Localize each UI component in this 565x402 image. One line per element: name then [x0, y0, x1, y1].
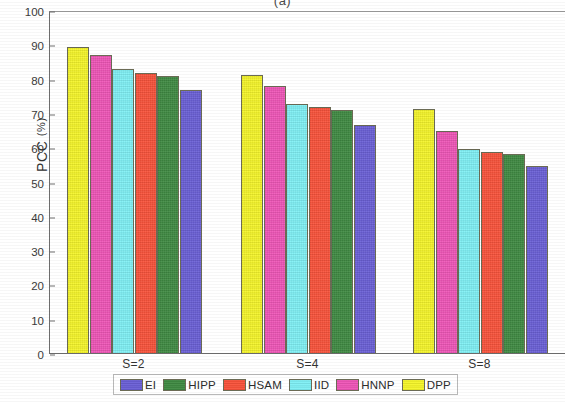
x-tick-label: S=4 [296, 357, 319, 371]
y-tick-mark [50, 355, 55, 356]
bar-dpp-S4 [241, 75, 263, 354]
legend-swatch-icon [402, 379, 425, 391]
legend-label: EI [145, 379, 156, 391]
bar-iid-S2 [112, 69, 134, 354]
legend-label: HIPP [188, 379, 216, 391]
y-tick-label: 70 [31, 109, 50, 121]
bar-hipp-S8 [503, 154, 525, 354]
bar-hnnp-S4 [264, 86, 286, 354]
bar-chart-figure: (a) PCC (%) 0102030405060708090100 S=2S=… [0, 0, 565, 402]
y-tick-mark [50, 114, 55, 115]
bar-group [241, 11, 376, 354]
legend-label: HNNP [361, 379, 394, 391]
legend-swatch-icon [163, 379, 186, 391]
legend-item-hipp[interactable]: HIPP [163, 379, 216, 391]
bar-hnnp-S2 [90, 55, 112, 354]
y-tick-mark [50, 217, 55, 218]
bar-hsam-S4 [309, 107, 331, 354]
y-tick-label: 40 [31, 212, 50, 224]
y-tick-label: 30 [31, 246, 50, 258]
legend-swatch-icon [120, 379, 143, 391]
bar-hnnp-S8 [436, 131, 458, 354]
y-tick-label: 50 [31, 178, 50, 190]
legend-item-hnnp[interactable]: HNNP [336, 379, 394, 391]
y-tick-label: 60 [31, 143, 50, 155]
bar-hsam-S8 [481, 152, 503, 354]
bar-hipp-S2 [157, 76, 179, 354]
bar-ei-S4 [354, 125, 376, 354]
legend-swatch-icon [336, 379, 359, 391]
y-tick-label: 90 [31, 40, 50, 52]
bar-ei-S2 [180, 90, 202, 354]
chart-legend: EIHIPPHSAMIIDHNNPDPP [113, 374, 458, 395]
y-tick-label: 20 [31, 280, 50, 292]
bar-hsam-S2 [135, 73, 157, 354]
legend-label: HSAM [248, 379, 282, 391]
y-tick-mark [50, 46, 55, 47]
x-tick-label: S=8 [468, 357, 491, 371]
y-tick-mark [50, 252, 55, 253]
bar-iid-S8 [458, 149, 480, 354]
bar-hipp-S4 [331, 110, 353, 354]
y-tick-mark [50, 80, 55, 81]
legend-item-iid[interactable]: IID [289, 379, 329, 391]
legend-label: IID [314, 379, 329, 391]
bar-dpp-S8 [413, 109, 435, 354]
legend-item-ei[interactable]: EI [120, 379, 156, 391]
bar-group [67, 11, 202, 354]
bar-group [413, 11, 548, 354]
legend-swatch-icon [223, 379, 246, 391]
y-tick-label: 80 [31, 75, 50, 87]
x-tick-label: S=2 [122, 357, 145, 371]
legend-item-hsam[interactable]: HSAM [223, 379, 282, 391]
y-tick-mark [50, 149, 55, 150]
y-tick-label: 100 [25, 6, 50, 18]
legend-item-dpp[interactable]: DPP [402, 379, 451, 391]
y-tick-mark [50, 286, 55, 287]
figure-title: (a) [0, 0, 565, 8]
y-tick-mark [50, 183, 55, 184]
bar-ei-S8 [526, 166, 548, 354]
bar-dpp-S2 [67, 47, 89, 354]
y-tick-mark [50, 12, 55, 13]
legend-swatch-icon [289, 379, 312, 391]
y-tick-label: 10 [31, 315, 50, 327]
y-tick-mark [50, 320, 55, 321]
y-tick-label: 0 [38, 349, 50, 361]
bar-iid-S4 [286, 104, 308, 354]
plot-area: PCC (%) 0102030405060708090100 [49, 11, 565, 354]
legend-label: DPP [427, 379, 451, 391]
x-axis-line [49, 353, 565, 354]
